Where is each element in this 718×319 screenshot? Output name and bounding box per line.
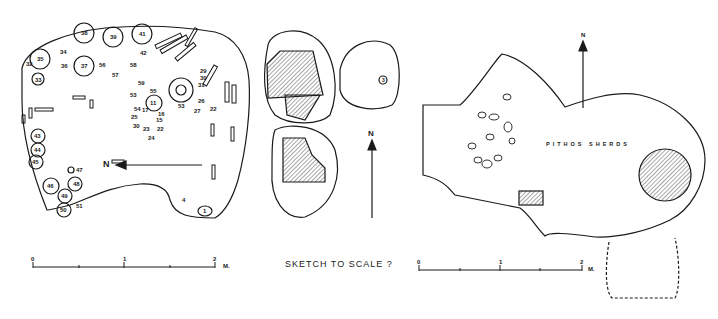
svg-text:N: N (581, 32, 585, 38)
svg-text:37: 37 (81, 63, 88, 69)
svg-text:57: 57 (112, 72, 119, 78)
svg-text:38: 38 (81, 30, 88, 36)
svg-text:33: 33 (35, 77, 42, 83)
svg-text:29: 29 (200, 68, 207, 74)
svg-text:N: N (368, 129, 374, 138)
svg-text:16: 16 (158, 111, 165, 117)
svg-text:51: 51 (76, 203, 83, 209)
svg-text:54: 54 (134, 106, 141, 112)
svg-text:1: 1 (203, 208, 207, 214)
svg-text:48: 48 (73, 181, 80, 187)
svg-text:55: 55 (150, 88, 157, 94)
svg-text:3: 3 (382, 77, 385, 83)
svg-text:35: 35 (37, 56, 44, 62)
svg-text:25: 25 (131, 114, 138, 120)
left-scale-bar (33, 262, 215, 268)
svg-text:31: 31 (198, 82, 205, 88)
right-plan (423, 41, 705, 298)
svg-text:45: 45 (32, 159, 39, 165)
svg-text:4: 4 (182, 197, 186, 203)
svg-text:34: 34 (60, 49, 67, 55)
middle-sketch (265, 31, 400, 218)
svg-text:56: 56 (99, 62, 106, 68)
svg-text:1: 1 (123, 256, 127, 262)
svg-text:23: 23 (143, 126, 150, 132)
svg-text:32: 32 (26, 61, 33, 67)
svg-text:24: 24 (148, 135, 155, 141)
svg-text:27: 27 (194, 108, 201, 114)
svg-text:44: 44 (34, 147, 41, 153)
svg-text:49: 49 (61, 193, 68, 199)
svg-text:39: 39 (110, 34, 117, 40)
svg-text:46: 46 (47, 183, 54, 189)
right-scale-bar (419, 265, 582, 271)
svg-text:0: 0 (417, 259, 421, 265)
svg-text:42: 42 (140, 50, 147, 56)
svg-text:22: 22 (157, 126, 164, 132)
right-labels: N PITHOS SHERDS (546, 32, 630, 147)
svg-text:M.: M. (223, 263, 230, 269)
sketch-caption: SKETCH TO SCALE ? (285, 259, 393, 269)
svg-text:N: N (103, 159, 110, 169)
svg-text:0: 0 (31, 256, 35, 262)
svg-text:58: 58 (130, 62, 137, 68)
svg-text:1: 1 (499, 259, 503, 265)
svg-text:36: 36 (61, 63, 68, 69)
svg-text:43: 43 (34, 133, 41, 139)
svg-text:2: 2 (213, 256, 217, 262)
archaeological-plans: 353233 343839 413736 564258 575311 29303… (0, 0, 718, 319)
svg-text:26: 26 (198, 98, 205, 104)
svg-text:30: 30 (133, 123, 140, 129)
svg-text:53: 53 (178, 103, 185, 109)
svg-text:53: 53 (130, 92, 137, 98)
svg-text:15: 15 (156, 117, 163, 123)
svg-text:47: 47 (76, 167, 83, 173)
svg-text:22: 22 (210, 106, 217, 112)
svg-text:2: 2 (580, 259, 584, 265)
svg-text:59: 59 (138, 80, 145, 86)
svg-text:30: 30 (200, 75, 207, 81)
left-plan (22, 23, 249, 218)
svg-text:50: 50 (60, 207, 67, 213)
svg-text:41: 41 (139, 31, 146, 37)
svg-text:M.: M. (588, 266, 595, 272)
svg-text:11: 11 (150, 100, 157, 106)
svg-text:17: 17 (142, 107, 149, 113)
svg-text:PITHOS SHERDS: PITHOS SHERDS (546, 141, 630, 147)
